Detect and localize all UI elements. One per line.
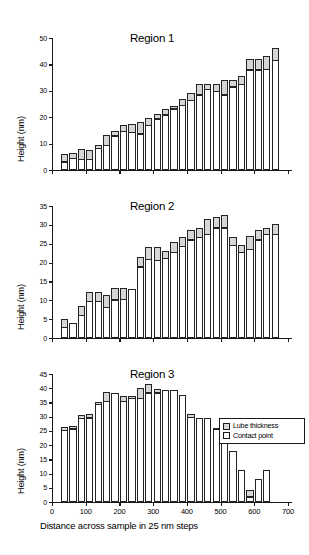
bar-segment-lube-thickness — [103, 392, 110, 402]
bar — [111, 132, 118, 170]
x-axis-title: Distance across sample in 25 nm steps — [40, 520, 198, 531]
bar-segment-lube-thickness — [213, 84, 220, 92]
legend-item: Lube thickness — [223, 422, 301, 431]
bar-segment-contact-point — [187, 240, 194, 338]
bar-segment-contact-point — [204, 89, 211, 170]
bar — [255, 59, 262, 170]
bar — [78, 306, 85, 338]
bar-segment-contact-point — [111, 136, 118, 170]
bar-segment-contact-point — [86, 418, 93, 502]
bar-segment-contact-point — [187, 100, 194, 170]
legend-swatch — [223, 423, 230, 430]
x-tick-label: 300 — [139, 508, 167, 516]
bar — [111, 393, 118, 502]
bar — [128, 396, 135, 502]
bar-segment-lube-thickness — [95, 292, 102, 302]
x-tick — [288, 339, 289, 342]
x-tick — [119, 339, 120, 342]
x-tick — [288, 171, 289, 174]
x-tick — [254, 339, 255, 342]
bar-segment-contact-point — [263, 69, 270, 170]
y-axis-title: Height (nm) — [16, 284, 26, 330]
x-tick — [288, 503, 289, 506]
y-tick-label: 50 — [26, 35, 47, 42]
bar-segment-lube-thickness — [61, 154, 68, 162]
bar-segment-contact-point — [154, 260, 161, 338]
bar-segment-contact-point — [61, 162, 68, 170]
bar-segment-contact-point — [103, 145, 110, 170]
bar-segment-contact-point — [221, 435, 228, 502]
bar — [162, 110, 169, 170]
bar-segment-contact-point — [246, 70, 253, 170]
bar — [154, 115, 161, 170]
y-tick-label: 30 — [26, 221, 47, 228]
bar-segment-contact-point — [145, 125, 152, 170]
x-axis-line — [52, 502, 292, 503]
bar — [246, 491, 253, 502]
bar-segment-contact-point — [179, 395, 186, 502]
bar-segment-contact-point — [61, 430, 68, 502]
bar-segment-lube-thickness — [187, 230, 194, 240]
y-tick-label: 10 — [26, 297, 47, 304]
bar-segment-lube-thickness — [179, 237, 186, 247]
y-tick-label: 25 — [26, 427, 47, 434]
x-tick — [221, 503, 222, 506]
legend-label: Lube thickness — [233, 422, 278, 430]
bar — [272, 224, 279, 338]
bar — [128, 289, 135, 338]
bar-segment-lube-thickness — [162, 251, 169, 258]
bar — [179, 100, 186, 170]
bar-segment-contact-point — [154, 393, 161, 502]
bar-segment-contact-point — [179, 246, 186, 338]
bar-segment-lube-thickness — [272, 224, 279, 235]
bar — [170, 107, 177, 170]
bar-segment-contact-point — [238, 470, 245, 502]
bar-segment-contact-point — [111, 300, 118, 338]
bar-segment-contact-point — [120, 131, 127, 170]
bar — [263, 229, 270, 338]
bar — [103, 136, 110, 170]
y-tick-label: 15 — [26, 456, 47, 463]
bar-segment-lube-thickness — [86, 150, 93, 160]
bar — [95, 403, 102, 502]
bar — [69, 323, 76, 338]
bar-segment-lube-thickness — [238, 76, 245, 85]
x-tick — [221, 339, 222, 342]
bar-segment-contact-point — [154, 119, 161, 170]
bar-segment-lube-thickness — [145, 118, 152, 126]
bar — [204, 84, 211, 170]
bar-segment-contact-point — [246, 249, 253, 338]
y-tick-label: 40 — [26, 61, 47, 68]
bar-segment-lube-thickness — [128, 396, 135, 399]
bar — [221, 216, 228, 338]
y-tick-label: 35 — [26, 399, 47, 406]
bar-segment-contact-point — [255, 479, 262, 502]
bar-segment-lube-thickness — [128, 124, 135, 133]
bar-segment-lube-thickness — [263, 56, 270, 70]
bar-segment-lube-thickness — [111, 131, 118, 136]
x-tick-label: 600 — [240, 508, 268, 516]
y-tick-label: 20 — [26, 114, 47, 121]
bar-segment-contact-point — [145, 259, 152, 338]
bar — [111, 289, 118, 338]
bar — [238, 470, 245, 502]
bar — [120, 125, 127, 170]
y-tick-label: 30 — [26, 87, 47, 94]
chart-panel-1: 01020304050Height (nm)Region 1 — [0, 28, 309, 178]
bar-segment-contact-point — [61, 327, 68, 338]
bar-segment-lube-thickness — [154, 114, 161, 119]
bar-segment-contact-point — [78, 159, 85, 170]
legend-item: Contact point — [223, 431, 301, 440]
chart-panel-3: 0510152025303540450100200300400500600700… — [0, 364, 309, 514]
bar-segment-contact-point — [120, 299, 127, 338]
x-tick — [119, 503, 120, 506]
x-tick-label: 400 — [173, 508, 201, 516]
bar-segment-lube-thickness — [246, 59, 253, 71]
figure-stacked-bar-regions: 01020304050Height (nm)Region 10510152025… — [0, 0, 309, 555]
bar-segment-lube-thickness — [120, 125, 127, 132]
bar-segment-lube-thickness — [196, 84, 203, 96]
bar-segment-lube-thickness — [179, 99, 186, 106]
bar-segment-contact-point — [120, 401, 127, 502]
bar-segment-contact-point — [213, 91, 220, 170]
y-tick-label: 10 — [26, 470, 47, 477]
